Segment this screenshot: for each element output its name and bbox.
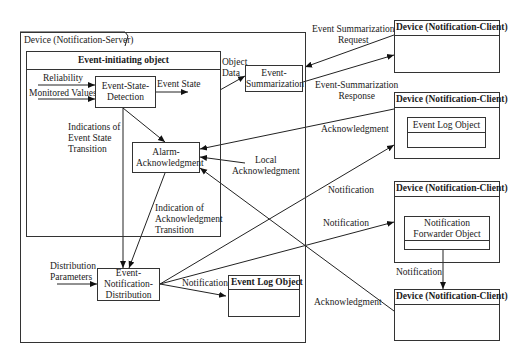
ack-transition-line-1: Indication of [155, 203, 223, 214]
object-data-line-1: Object [222, 57, 247, 68]
alarm-ack-label: Alarm-Acknowledgment [136, 147, 196, 169]
dist-params-line-1: Distribution [50, 261, 96, 272]
acknowledgment-label-2: Acknowledgment [314, 297, 382, 308]
server-notification-label: Notification [182, 278, 228, 289]
notification-label-2: Notification [323, 218, 369, 229]
client-2-title: Device (Notification-Client) [395, 93, 499, 108]
alarm-acknowledgment[interactable]: Alarm-Acknowledgment [132, 142, 200, 173]
client-1-title: Device (Notification-Client) [395, 21, 499, 36]
client-event-log-title: Event Log Object [408, 118, 485, 133]
local-ack-line-2: Acknowledgment [232, 166, 300, 177]
monitored-values-label: Monitored Values [29, 88, 97, 99]
es-response-line-2: Response [315, 91, 398, 102]
server-event-log-title: Event Log Object [229, 276, 299, 290]
object-data-label: Object Data [222, 57, 247, 79]
es-request-line-1: Event Summarization [312, 24, 395, 35]
reliability-label: Reliability [43, 73, 83, 84]
distribution-params-label: Distribution Parameters [50, 261, 96, 283]
indications-line-3: Transition [68, 144, 121, 155]
event-summarization-label: Event-Summarization [246, 68, 302, 90]
indications-label: Indications of Event State Transition [68, 122, 121, 155]
local-ack-line-1: Local [232, 155, 300, 166]
client-4-title: Device (Notification-Client) [395, 290, 499, 305]
es-response-line-1: Event-Summarization [315, 80, 398, 91]
acknowledgment-label-1: Acknowledgment [321, 124, 389, 135]
event-notification-distribution[interactable]: Event-Notification-Distribution [97, 268, 160, 301]
object-data-line-2: Data [222, 68, 247, 79]
client-event-log-object[interactable]: Event Log Object [407, 117, 486, 148]
notification-client-1[interactable]: Device (Notification-Client) [394, 20, 500, 73]
es-request-line-2: Request [312, 35, 395, 46]
server-title: Device (Notification-Server) [21, 33, 136, 47]
event-summarization[interactable]: Event-Summarization [245, 65, 303, 92]
event-state-detection-label: Event-State-Detection [101, 81, 151, 103]
indications-line-1: Indications of [68, 122, 121, 133]
dist-params-line-2: Parameters [50, 272, 96, 283]
client-3-title: Device (Notification-Client) [395, 182, 499, 197]
initiating-object-title: Event-initiating object [27, 52, 220, 70]
server-event-log-object[interactable]: Event Log Object [228, 275, 300, 317]
event-state-label: Event State [157, 79, 201, 90]
ack-transition-line-2: Acknowledgment [155, 214, 223, 225]
indications-line-2: Event State [68, 133, 121, 144]
ack-transition-line-3: Transition [155, 225, 223, 236]
end-label: Event-Notification-Distribution [100, 268, 158, 301]
notification-client-4[interactable]: Device (Notification-Client) [394, 289, 500, 341]
notification-forwarder-object[interactable]: Notification Forwarder Object [404, 216, 490, 250]
es-request-label: Event Summarization Request [312, 24, 395, 46]
event-state-detection[interactable]: Event-State-Detection [95, 76, 156, 108]
notification-label-1: Notification [328, 185, 374, 196]
local-ack-label: Local Acknowledgment [232, 155, 300, 177]
notification-fwd-label: Notification [396, 267, 442, 278]
es-response-label: Event-Summarization Response [315, 80, 398, 102]
forwarder-title: Notification Forwarder Object [405, 217, 489, 241]
ack-transition-label: Indication of Acknowledgment Transition [155, 203, 223, 236]
